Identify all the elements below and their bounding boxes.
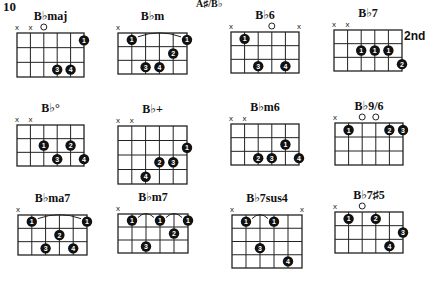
finger-number: 3 [144, 64, 148, 71]
finger-number: 4 [387, 243, 391, 250]
muted-string-marker: x [333, 113, 337, 122]
chord-diagram: xx1234 [116, 116, 192, 184]
finger-number: 1 [82, 37, 86, 44]
muted-string-marker: x [229, 114, 233, 123]
muted-string-marker: x [28, 23, 32, 32]
finger-number: 1 [283, 141, 287, 148]
finger-number: 3 [44, 245, 48, 252]
finger-number: 4 [286, 258, 290, 265]
finger-number: 1 [158, 217, 162, 224]
finger-number: 4 [82, 156, 86, 163]
muted-string-marker: x [116, 23, 120, 32]
finger-number: 1 [42, 142, 46, 149]
muted-string-marker: x [297, 22, 301, 31]
finger-number: 3 [270, 155, 274, 162]
chord-diagram: xx134 [15, 23, 89, 77]
finger-number: 1 [347, 215, 351, 222]
muted-string-marker: x [230, 205, 234, 214]
finger-number: 1 [30, 218, 34, 225]
finger-number: 4 [144, 173, 148, 180]
muted-string-marker: x [333, 202, 337, 211]
chord-diagram: xx1234 [15, 115, 89, 166]
finger-number: 1 [386, 47, 390, 54]
finger-number: 3 [55, 156, 59, 163]
chord-diagrams: xx134x11234xx134xx1112xx1234xx1234xx1234… [0, 0, 439, 303]
chord-diagram: xx134 [229, 22, 301, 73]
finger-number: 4 [71, 245, 75, 252]
finger-number: 2 [387, 127, 391, 134]
chord-diagram: x123 [333, 113, 408, 165]
muted-string-marker: x [300, 205, 304, 214]
finger-number: 4 [69, 66, 73, 73]
muted-string-marker: x [346, 20, 350, 29]
finger-number: 2 [400, 61, 404, 68]
finger-number: 4 [157, 64, 161, 71]
muted-string-marker: x [15, 23, 19, 32]
finger-number: 1 [85, 218, 89, 225]
finger-number: 1 [185, 144, 189, 151]
muted-string-marker: x [243, 114, 247, 123]
finger-number: 3 [258, 245, 262, 252]
finger-number: 1 [185, 36, 189, 43]
finger-number: 2 [157, 159, 161, 166]
finger-number: 1 [243, 35, 247, 42]
open-string-marker [269, 23, 275, 29]
finger-number: 3 [55, 66, 59, 73]
finger-number: 3 [256, 63, 260, 70]
finger-number: 2 [172, 230, 176, 237]
finger-number: 4 [297, 155, 301, 162]
finger-number: 2 [256, 155, 260, 162]
finger-number: 1 [244, 218, 248, 225]
finger-number: 1 [272, 218, 276, 225]
chord-diagram: xx1134 [230, 205, 304, 268]
open-string-marker [359, 203, 365, 209]
muted-string-marker: x [16, 205, 20, 214]
muted-string-marker: x [130, 116, 134, 125]
finger-number: 2 [171, 50, 175, 57]
chord-diagram: x1234 [333, 202, 408, 253]
chord-diagram: xx1234 [229, 114, 304, 165]
open-string-marker [359, 114, 365, 120]
chord-diagram: x11234 [116, 23, 192, 74]
finger-number: 4 [283, 63, 287, 70]
finger-number: 1 [373, 47, 377, 54]
muted-string-marker: x [15, 115, 19, 124]
finger-number: 2 [57, 232, 61, 239]
finger-number: 2 [69, 142, 73, 149]
finger-number: 3 [401, 127, 405, 134]
muted-string-marker: x [116, 204, 120, 213]
finger-number: 3 [144, 243, 148, 250]
open-string-marker [41, 24, 47, 30]
chord-diagram: x11123 [116, 204, 193, 253]
finger-number: 3 [401, 229, 405, 236]
finger-number: 1 [347, 127, 351, 134]
muted-string-marker: x [332, 20, 336, 29]
chord-diagram: x11234 [16, 205, 92, 255]
finger-number: 2 [374, 215, 378, 222]
muted-string-marker: x [116, 116, 120, 125]
finger-number: 1 [130, 217, 134, 224]
finger-number: 1 [359, 47, 363, 54]
finger-number: 1 [130, 36, 134, 43]
muted-string-marker: x [229, 22, 233, 31]
open-string-marker [373, 114, 379, 120]
muted-string-marker: x [28, 115, 32, 124]
finger-number: 1 [186, 217, 190, 224]
finger-number: 3 [171, 159, 175, 166]
chord-diagram: xx1112 [332, 20, 407, 71]
